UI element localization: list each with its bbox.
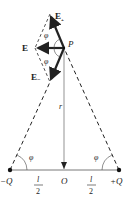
- dipole-field-diagram: E+ E E− P φ φ φ φ r −Q +Q O l 2 l 2: [0, 0, 136, 199]
- label-pos-charge: +Q: [110, 176, 123, 186]
- label-half-l-left: l 2: [34, 175, 43, 196]
- label-origin: O: [61, 176, 68, 186]
- positive-charge-dot: [117, 168, 121, 172]
- label-phi-left: φ: [29, 153, 34, 162]
- negative-charge-dot: [8, 168, 12, 172]
- label-phi-upper: φ: [44, 31, 49, 40]
- label-e-net: E: [22, 43, 28, 53]
- label-phi-lower: φ: [44, 57, 49, 66]
- label-point-p: P: [67, 39, 74, 49]
- angle-arc-right: [102, 155, 112, 170]
- svg-text:2: 2: [89, 187, 93, 196]
- e-minus-vector: [51, 48, 64, 79]
- angle-arc-lower: [54, 48, 60, 57]
- label-phi-right: φ: [94, 153, 99, 162]
- angle-arc-upper: [54, 39, 60, 48]
- angle-arc-left: [17, 155, 27, 170]
- svg-text:l: l: [90, 175, 93, 184]
- svg-text:2: 2: [36, 187, 40, 196]
- label-neg-charge: −Q: [0, 176, 13, 186]
- label-e-plus: E+: [55, 11, 64, 22]
- dashed-line-pos-charge: [64, 48, 119, 170]
- label-half-l-right: l 2: [87, 175, 96, 196]
- label-r: r: [59, 102, 63, 111]
- svg-text:l: l: [37, 175, 40, 184]
- point-p-dot: [63, 47, 65, 49]
- label-e-minus: E−: [31, 72, 41, 82]
